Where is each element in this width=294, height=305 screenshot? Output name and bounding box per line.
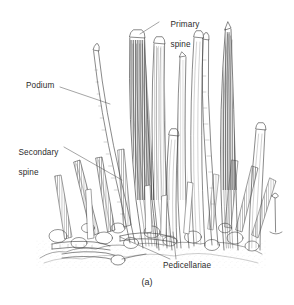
secondary-spine-12 <box>161 195 167 236</box>
figure-caption: (a) <box>0 277 294 287</box>
secondary-spine-10 <box>208 174 219 230</box>
leader-primary-spine <box>140 22 159 34</box>
label-primary-spine: Primary spine <box>161 10 199 60</box>
test-surface <box>36 240 266 268</box>
label-primary-spine-line2: spine <box>171 40 191 49</box>
label-pedicellariae: Pedicellariae <box>163 261 211 271</box>
label-secondary-spine-line2: spine <box>19 168 39 177</box>
label-secondary-spine-line1: Secondary <box>19 148 59 157</box>
secondary-spine-2 <box>96 157 115 232</box>
secondary-spine-5 <box>236 166 258 232</box>
label-secondary-spine: Secondary spine <box>9 138 59 188</box>
label-podium: Podium <box>26 81 54 91</box>
figure-container: Primary spine Podium Secondary spine Ped… <box>0 0 294 305</box>
secondary-spine-4 <box>118 149 131 227</box>
leader-podium <box>60 87 110 104</box>
label-primary-spine-line1: Primary <box>171 20 200 29</box>
primary-spine-4 <box>191 31 205 246</box>
pedicellaria-4 <box>270 193 282 234</box>
secondary-spine-6 <box>252 178 276 238</box>
leader-secondary-spine <box>64 147 122 180</box>
